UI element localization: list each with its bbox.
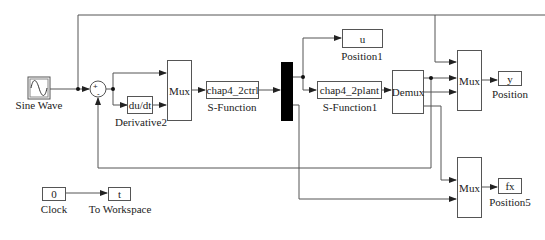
plant-text: chap4_2plant [320, 84, 379, 96]
clock-text: 0 [51, 188, 57, 200]
to-workspace-text: t [118, 188, 121, 200]
sine-wave-label: Sine Wave [16, 99, 63, 111]
ctrl-sfunction-block[interactable]: chap4_2ctrl [206, 81, 259, 99]
to-workspace-label: To Workspace [89, 203, 152, 215]
demux-text: Demux [392, 86, 424, 98]
derivative-text: du/dt [129, 99, 152, 111]
position5-label: Position5 [489, 196, 531, 208]
svg-text:-: - [97, 89, 100, 98]
position5-text: fx [505, 180, 514, 192]
to-workspace-block[interactable]: t [108, 187, 131, 201]
position1-text: u [360, 33, 366, 45]
plant-label: S-Function1 [323, 101, 377, 113]
derivative-block[interactable]: du/dt [127, 96, 153, 114]
mux2-text: Mux [459, 75, 480, 87]
position-label: Position [492, 88, 528, 100]
position-block[interactable]: y [498, 71, 522, 86]
derivative-label: Derivative2 [115, 116, 167, 128]
ctrl-label: S-Function [208, 101, 257, 113]
demux-block[interactable]: Demux [392, 70, 424, 114]
bus-bar[interactable] [281, 62, 293, 121]
clock-label: Clock [41, 203, 67, 215]
sine-wave-block[interactable] [28, 77, 50, 99]
mux1-block[interactable]: Mux [167, 60, 192, 121]
mux2-block[interactable]: Mux [457, 50, 482, 111]
mux3-block[interactable]: Mux [457, 157, 482, 218]
clock-block[interactable]: 0 [42, 187, 66, 201]
mux1-text: Mux [169, 85, 190, 97]
position1-block[interactable]: u [342, 29, 383, 48]
position1-label: Position1 [341, 50, 383, 62]
position5-block[interactable]: fx [498, 178, 522, 194]
mux3-text: Mux [459, 182, 480, 194]
position-text: y [507, 73, 513, 85]
ctrl-text: chap4_2ctrl [207, 84, 259, 96]
plant-sfunction-block[interactable]: chap4_2plant [317, 81, 382, 99]
